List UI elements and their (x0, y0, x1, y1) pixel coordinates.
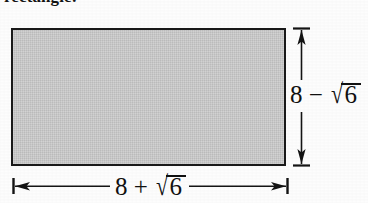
shaded-rectangle (11, 28, 286, 166)
width-label-operator: + (134, 173, 148, 200)
width-label-radical: √6 (154, 174, 184, 200)
caption-clip: rectangle: (4, 0, 204, 9)
height-label-radical: √6 (329, 82, 359, 108)
figure-canvas: rectangle: (0, 0, 368, 203)
width-dimension-label: 8 + √6 (110, 174, 189, 200)
height-label-operator: − (309, 81, 323, 108)
height-dimension-label: 8 − √6 (290, 80, 359, 112)
height-label-term: 8 (290, 81, 303, 108)
height-label-radicand: 6 (342, 82, 359, 107)
width-label-term: 8 (115, 173, 128, 200)
rectangle-shading-texture (13, 30, 284, 164)
figure-caption-text: rectangle: (4, 0, 204, 7)
width-label-radicand: 6 (167, 174, 184, 199)
